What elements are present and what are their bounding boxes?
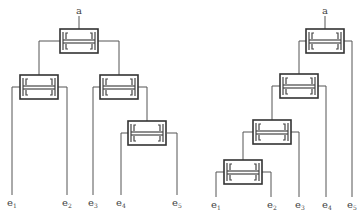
left-leaf-e4: e4 — [116, 197, 126, 209]
left-tree: a e1 e2 e3 e4 e5 — [7, 5, 182, 209]
right-root-node — [306, 29, 344, 53]
left-leaf-e2: e2 — [62, 197, 72, 209]
right-root-left-lead — [299, 41, 306, 74]
right-node2-left-lead — [272, 86, 280, 120]
left-leaf-e5: e5 — [172, 197, 182, 209]
right-node-3 — [253, 120, 291, 144]
right-node-e1e2 — [224, 160, 262, 184]
left-leaf-e3: e3 — [88, 197, 98, 209]
right-lead-e2 — [262, 172, 271, 197]
right-lead-e4 — [318, 86, 326, 197]
right-node3-left-lead — [243, 132, 253, 160]
right-lead-e3 — [291, 132, 299, 197]
left-lead-e5 — [167, 133, 177, 195]
right-lead-e1 — [216, 172, 224, 197]
right-tree: a e1 e2 e3 e4 e5 — [211, 5, 357, 211]
left-node-e1e2 — [20, 75, 58, 99]
right-leaf-e3: e3 — [295, 199, 305, 211]
diagram-canvas: a e1 e2 e3 e4 e5 a e1 e2 e3 e4 e5 — [0, 0, 362, 219]
left-lead-to-sub — [138, 87, 147, 121]
left-lead-e3 — [93, 87, 100, 195]
right-leaf-e4: e4 — [322, 199, 332, 211]
left-root-node — [60, 29, 98, 53]
right-node-2 — [280, 74, 318, 98]
left-lead-e2 — [58, 87, 67, 195]
right-leaf-e1: e1 — [211, 199, 221, 211]
left-root-label: a — [76, 5, 82, 16]
left-root-right-lead — [98, 41, 119, 75]
right-root-label: a — [322, 5, 328, 16]
left-root-left-lead — [39, 41, 60, 75]
right-leaf-e2: e2 — [267, 199, 277, 211]
right-leaf-e5: e5 — [347, 199, 357, 211]
left-lead-e1 — [12, 87, 20, 195]
left-leaf-e1: e1 — [7, 197, 17, 209]
left-node-e4e5 — [128, 121, 166, 145]
right-lead-e5 — [344, 41, 352, 197]
left-lead-e4 — [121, 133, 128, 195]
left-node-e3-sub — [100, 75, 138, 99]
